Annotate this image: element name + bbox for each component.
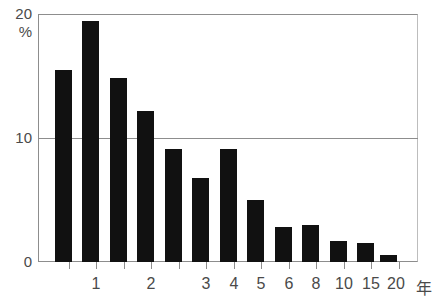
x-axis-label: 5 xyxy=(257,275,266,293)
x-axis-label: 6 xyxy=(285,275,294,293)
x-axis-labels-layer: 1234568101520年 xyxy=(0,0,444,304)
x-axis-label: 8 xyxy=(312,275,321,293)
x-axis-label: 15 xyxy=(362,275,380,293)
x-axis-label: 1 xyxy=(92,275,101,293)
x-axis-label: 2 xyxy=(147,275,156,293)
x-axis-label: 10 xyxy=(335,275,353,293)
x-axis-label: 4 xyxy=(230,275,239,293)
x-axis-label: 3 xyxy=(202,275,211,293)
chart-page: ───────────────────────────── 20 % 10 0 … xyxy=(0,0,444,304)
x-axis-label: 年 xyxy=(416,275,432,299)
x-axis-label: 20 xyxy=(387,275,405,293)
